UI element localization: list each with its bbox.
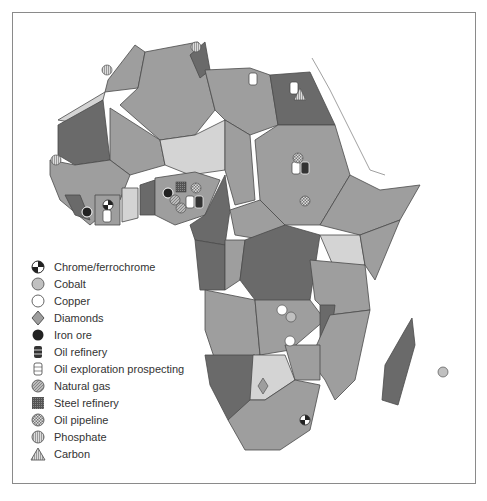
legend-item-iron-ore: Iron ore — [30, 326, 184, 343]
cobalt-icon — [30, 276, 46, 292]
iron-ore-marker — [82, 207, 92, 217]
legend-item-cobalt: Cobalt — [30, 275, 184, 292]
oil-exploration-icon — [30, 361, 46, 377]
legend-item-oil-pipeline: Oil pipeline — [30, 411, 184, 428]
carbon-icon — [30, 446, 46, 462]
legend-item-oil-exploration: Oil exploration prospecting — [30, 360, 184, 377]
oil-refinery-marker — [195, 196, 203, 208]
diamonds-icon — [30, 310, 46, 326]
copper-marker — [277, 305, 287, 315]
legend: Chrome/ferrochrome Cobalt Copper Diamond… — [30, 258, 184, 462]
oil-exploration-marker — [186, 196, 194, 208]
oil-exploration-marker — [103, 210, 111, 222]
legend-item-carbon: Carbon — [30, 445, 184, 462]
oil-pipeline-marker — [191, 183, 201, 193]
oil-refinery-icon — [30, 344, 46, 360]
legend-item-natural-gas: Natural gas — [30, 377, 184, 394]
copper-icon — [30, 293, 46, 309]
legend-item-phosphate: Phosphate — [30, 428, 184, 445]
oil-exploration-marker — [292, 162, 300, 174]
phosphate-icon — [30, 429, 46, 445]
oil-exploration-marker — [249, 73, 257, 85]
chrome-ferrochrome-icon — [30, 259, 46, 275]
chrome-marker — [300, 415, 310, 425]
legend-item-copper: Copper — [30, 292, 184, 309]
phosphate-marker — [102, 65, 112, 75]
phosphate-marker — [51, 155, 61, 165]
legend-item-diamonds: Diamonds — [30, 309, 184, 326]
oil-pipeline-marker — [293, 153, 303, 163]
chrome-marker — [103, 200, 113, 210]
steel-refinery-icon — [30, 395, 46, 411]
oil-refinery-marker — [301, 162, 309, 174]
steel-refinery-marker — [176, 182, 186, 192]
oil-pipeline-icon — [30, 412, 46, 428]
oil-exploration-marker — [290, 82, 298, 94]
oil-pipeline-marker — [300, 196, 310, 206]
legend-item-steel-refinery: Steel refinery — [30, 394, 184, 411]
natural-gas-icon — [30, 378, 46, 394]
iron-ore-icon — [30, 327, 46, 343]
natural-gas-marker — [176, 203, 186, 213]
phosphate-marker — [191, 42, 201, 52]
legend-item-oil-refinery: Oil refinery — [30, 343, 184, 360]
legend-item-chrome: Chrome/ferrochrome — [30, 258, 184, 275]
cobalt-marker — [286, 312, 296, 322]
copper-marker — [285, 336, 295, 346]
cobalt-marker — [438, 367, 448, 377]
